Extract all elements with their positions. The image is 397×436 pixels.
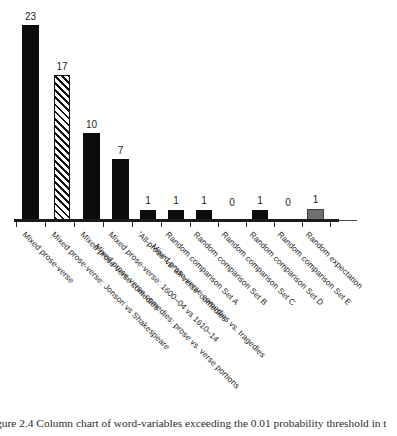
bar-value-label-7: 0 xyxy=(224,198,240,208)
bar-value-label-4: 1 xyxy=(140,196,156,206)
x-axis-line-extension xyxy=(339,220,357,221)
bar-value-label-2: 10 xyxy=(83,120,100,130)
bar-value-label-10: 1 xyxy=(307,195,324,205)
bar-value-label-3: 7 xyxy=(112,146,129,156)
bar-value-label-0: 23 xyxy=(22,12,39,22)
bar-2 xyxy=(83,133,100,220)
bar-value-label-6: 1 xyxy=(196,196,212,206)
bar-1 xyxy=(54,75,70,220)
bar-0 xyxy=(22,25,39,220)
bar-value-label-9: 0 xyxy=(280,198,296,208)
x-axis-label-0: Mixed prose-verse xyxy=(21,230,76,285)
bar-value-label-1: 17 xyxy=(54,62,70,72)
bars-layer xyxy=(0,0,397,220)
bar-value-label-5: 1 xyxy=(168,196,184,206)
bar-value-label-8: 1 xyxy=(252,196,268,206)
bar-3 xyxy=(112,159,129,220)
chart-plot-area: 23 17 10 7 1 1 1 0 1 0 1 xyxy=(0,0,397,232)
x-axis-category-labels: Mixed prose-verse Mixed prose-verse: Jon… xyxy=(0,226,397,411)
figure-caption: igure 2.4 Column chart of word-variables… xyxy=(0,416,397,430)
figure-column-chart: 23 17 10 7 1 1 1 0 1 0 1 Mixed prose-ver… xyxy=(0,0,397,436)
x-axis-line xyxy=(14,219,339,222)
